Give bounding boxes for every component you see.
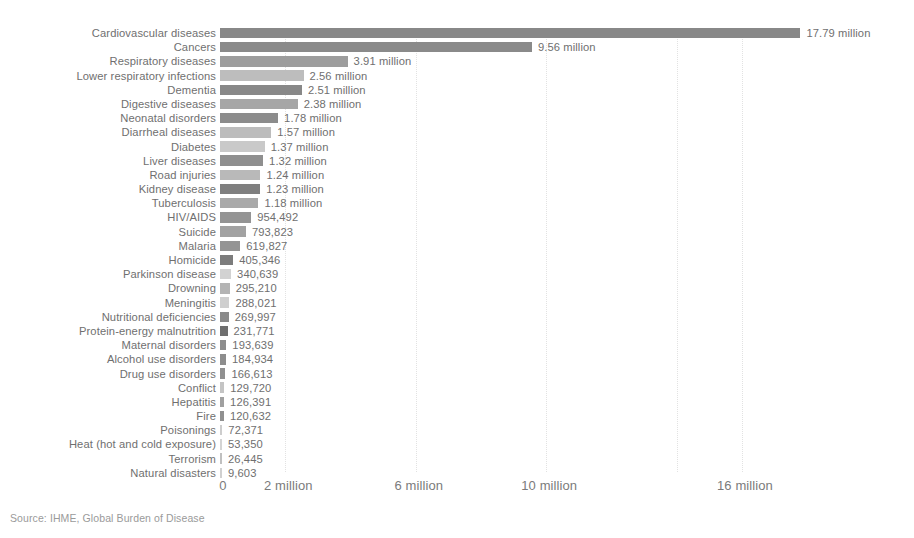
axis-tick-label: 2 million	[264, 478, 313, 493]
value-label: 954,492	[257, 210, 298, 224]
category-label: Homicide	[0, 253, 216, 267]
value-label: 26,445	[228, 452, 263, 466]
bar-container	[220, 340, 226, 350]
category-label: Road injuries	[0, 168, 216, 182]
bar-row: Heat (hot and cold exposure)53,350	[0, 437, 914, 451]
bar	[220, 354, 226, 364]
bar-container	[220, 28, 800, 38]
bar-container	[220, 411, 224, 421]
category-label: Tuberculosis	[0, 196, 216, 210]
bar-row: Meningitis288,021	[0, 296, 914, 310]
bar	[220, 453, 222, 463]
category-label: HIV/AIDS	[0, 210, 216, 224]
bar	[220, 297, 229, 307]
category-label: Fire	[0, 409, 216, 423]
bar-row: Alcohol use disorders184,934	[0, 352, 914, 366]
bar	[220, 85, 302, 95]
bar	[220, 468, 222, 478]
bar-container	[220, 141, 265, 151]
category-label: Meningitis	[0, 296, 216, 310]
bar-row: Cardiovascular diseases17.79 million	[0, 26, 914, 40]
bar-container	[220, 382, 224, 392]
category-label: Cancers	[0, 40, 216, 54]
value-label: 1.18 million	[264, 196, 322, 210]
category-label: Poisonings	[0, 423, 216, 437]
bar-row: Drug use disorders166,613	[0, 367, 914, 381]
value-label: 1.57 million	[277, 125, 335, 139]
category-label: Dementia	[0, 83, 216, 97]
bar	[220, 170, 260, 180]
value-label: 129,720	[230, 381, 271, 395]
value-label: 269,997	[235, 310, 276, 324]
bar	[220, 99, 298, 109]
bar	[220, 212, 251, 222]
bar	[220, 269, 231, 279]
category-label: Maternal disorders	[0, 338, 216, 352]
value-label: 288,021	[235, 296, 276, 310]
bar	[220, 425, 222, 435]
bar-row: Kidney disease1.23 million	[0, 182, 914, 196]
bar-row: Poisonings72,371	[0, 423, 914, 437]
value-label: 2.56 million	[310, 69, 368, 83]
category-label: Lower respiratory infections	[0, 69, 216, 83]
bar-container	[220, 269, 231, 279]
bar-row: Drowning295,210	[0, 281, 914, 295]
bar-row: Diabetes1.37 million	[0, 140, 914, 154]
bar-container	[220, 70, 304, 80]
bar-container	[220, 368, 225, 378]
bar-row: Liver diseases1.32 million	[0, 154, 914, 168]
bar	[220, 113, 278, 123]
bar	[220, 56, 348, 66]
bar-container	[220, 42, 532, 52]
category-label: Suicide	[0, 225, 216, 239]
bar-container	[220, 354, 226, 364]
category-label: Malaria	[0, 239, 216, 253]
bar	[220, 397, 224, 407]
value-label: 53,350	[228, 437, 263, 451]
bar-container	[220, 56, 348, 66]
bar-container	[220, 226, 246, 236]
value-label: 295,210	[236, 281, 277, 295]
bar	[220, 141, 265, 151]
x-axis: 02 million6 million10 million16 million	[0, 478, 914, 500]
bar-container	[220, 99, 298, 109]
bar-row: Tuberculosis1.18 million	[0, 196, 914, 210]
category-label: Cardiovascular diseases	[0, 26, 216, 40]
axis-tick-label: 0	[219, 478, 226, 493]
bar-container	[220, 212, 251, 222]
bar-row: HIV/AIDS954,492	[0, 210, 914, 224]
bar	[220, 255, 233, 265]
value-label: 2.38 million	[304, 97, 362, 111]
bar-row: Protein-energy malnutrition231,771	[0, 324, 914, 338]
category-label: Alcohol use disorders	[0, 352, 216, 366]
value-label: 1.23 million	[266, 182, 324, 196]
bar-container	[220, 113, 278, 123]
category-label: Digestive diseases	[0, 97, 216, 111]
bar-row: Road injuries1.24 million	[0, 168, 914, 182]
value-label: 3.91 million	[354, 54, 412, 68]
bar	[220, 127, 271, 137]
axis-tick-label: 10 million	[521, 478, 577, 493]
axis-tick-label: 16 million	[717, 478, 773, 493]
bar-row: Parkinson disease340,639	[0, 267, 914, 281]
bar-row: Neonatal disorders1.78 million	[0, 111, 914, 125]
value-label: 2.51 million	[308, 83, 366, 97]
bar-row: Suicide793,823	[0, 225, 914, 239]
bar-row: Fire120,632	[0, 409, 914, 423]
category-label: Conflict	[0, 381, 216, 395]
bar-row: Diarrheal diseases1.57 million	[0, 125, 914, 139]
bar-container	[220, 255, 233, 265]
category-label: Protein-energy malnutrition	[0, 324, 216, 338]
bar	[220, 312, 229, 322]
bar-row: Maternal disorders193,639	[0, 338, 914, 352]
bar	[220, 382, 224, 392]
source-note: Source: IHME, Global Burden of Disease	[10, 512, 205, 524]
bar-container	[220, 170, 260, 180]
value-label: 126,391	[230, 395, 271, 409]
bar	[220, 70, 304, 80]
bar	[220, 439, 222, 449]
value-label: 1.78 million	[284, 111, 342, 125]
value-label: 166,613	[231, 367, 272, 381]
bar	[220, 28, 800, 38]
bar	[220, 226, 246, 236]
